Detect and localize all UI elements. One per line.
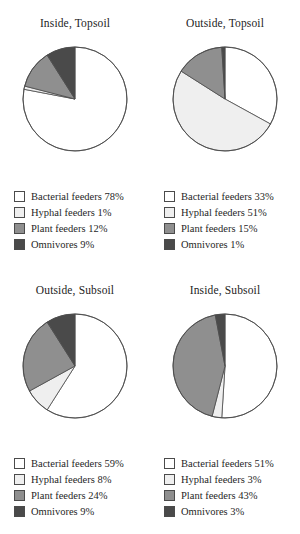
legend-item: Hyphal feeders 3%: [164, 471, 300, 487]
pie-svg: [20, 44, 130, 154]
panel-title: Outside, Subsoil: [0, 284, 150, 296]
panel-title: Inside, Subsoil: [150, 284, 300, 296]
legend-swatch-omnivores: [14, 506, 25, 517]
legend-inside-subsoil: Bacterial feeders 51%Hyphal feeders 3%Pl…: [164, 455, 300, 519]
legend-swatch-plant: [14, 223, 25, 234]
legend-label: Bacterial feeders 51%: [181, 458, 274, 469]
legend-item: Plant feeders 15%: [164, 220, 300, 236]
legend-label: Bacterial feeders 59%: [31, 458, 124, 469]
pie-panel-inside-topsoil: Inside, Topsoil Bacterial feeders 78%Hyp…: [0, 0, 150, 267]
legend-swatch-bacterial: [14, 458, 25, 469]
legend-item: Bacterial feeders 59%: [14, 455, 150, 471]
legend-swatch-hyphal: [164, 474, 175, 485]
legend-label: Hyphal feeders 51%: [181, 207, 267, 218]
legend-label: Bacterial feeders 78%: [31, 191, 124, 202]
legend-swatch-bacterial: [164, 191, 175, 202]
legend-swatch-plant: [164, 223, 175, 234]
legend-item: Hyphal feeders 1%: [14, 204, 150, 220]
figure-sheet: Inside, Topsoil Bacterial feeders 78%Hyp…: [0, 0, 300, 534]
legend-label: Hyphal feeders 8%: [31, 474, 111, 485]
legend-swatch-omnivores: [14, 239, 25, 250]
legend-item: Hyphal feeders 8%: [14, 471, 150, 487]
legend-swatch-hyphal: [14, 474, 25, 485]
legend-label: Plant feeders 43%: [181, 490, 257, 501]
panel-title: Inside, Topsoil: [0, 17, 150, 29]
legend-item: Bacterial feeders 51%: [164, 455, 300, 471]
pie-svg: [170, 311, 280, 421]
panel-title: Outside, Topsoil: [150, 17, 300, 29]
legend-swatch-omnivores: [164, 506, 175, 517]
legend-item: Plant feeders 12%: [14, 220, 150, 236]
legend-item: Plant feeders 43%: [164, 487, 300, 503]
pie-panel-outside-topsoil: Outside, Topsoil Bacterial feeders 33%Hy…: [150, 0, 300, 267]
legend-label: Omnivores 9%: [31, 239, 94, 250]
legend-item: Omnivores 9%: [14, 503, 150, 519]
legend-item: Omnivores 1%: [164, 236, 300, 252]
legend-swatch-hyphal: [14, 207, 25, 218]
legend-label: Hyphal feeders 3%: [181, 474, 261, 485]
pie-chart-outside-subsoil: [0, 311, 150, 427]
legend-item: Bacterial feeders 33%: [164, 188, 300, 204]
legend-outside-subsoil: Bacterial feeders 59%Hyphal feeders 8%Pl…: [14, 455, 150, 519]
legend-swatch-bacterial: [14, 191, 25, 202]
legend-swatch-plant: [164, 490, 175, 501]
legend-item: Plant feeders 24%: [14, 487, 150, 503]
legend-label: Omnivores 3%: [181, 506, 244, 517]
pie-slice-bacterial: [222, 314, 277, 418]
legend-label: Bacterial feeders 33%: [181, 191, 274, 202]
legend-swatch-bacterial: [164, 458, 175, 469]
legend-swatch-hyphal: [164, 207, 175, 218]
pie-svg: [20, 311, 130, 421]
legend-label: Plant feeders 15%: [181, 223, 257, 234]
legend-item: Bacterial feeders 78%: [14, 188, 150, 204]
pie-svg: [170, 44, 280, 154]
pie-chart-inside-subsoil: [150, 311, 300, 427]
pie-panel-outside-subsoil: Outside, Subsoil Bacterial feeders 59%Hy…: [0, 267, 150, 534]
legend-item: Hyphal feeders 51%: [164, 204, 300, 220]
legend-swatch-plant: [14, 490, 25, 501]
pie-chart-outside-topsoil: [150, 44, 300, 160]
legend-item: Omnivores 3%: [164, 503, 300, 519]
legend-label: Plant feeders 12%: [31, 223, 107, 234]
pie-panel-inside-subsoil: Inside, Subsoil Bacterial feeders 51%Hyp…: [150, 267, 300, 534]
legend-label: Plant feeders 24%: [31, 490, 107, 501]
legend-inside-topsoil: Bacterial feeders 78%Hyphal feeders 1%Pl…: [14, 188, 150, 252]
pie-chart-inside-topsoil: [0, 44, 150, 160]
legend-label: Hyphal feeders 1%: [31, 207, 111, 218]
legend-swatch-omnivores: [164, 239, 175, 250]
legend-outside-topsoil: Bacterial feeders 33%Hyphal feeders 51%P…: [164, 188, 300, 252]
legend-item: Omnivores 9%: [14, 236, 150, 252]
legend-label: Omnivores 9%: [31, 506, 94, 517]
legend-label: Omnivores 1%: [181, 239, 244, 250]
